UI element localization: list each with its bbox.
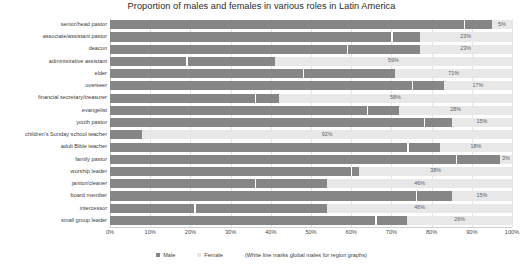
category-label: associate/assistant pastor bbox=[1, 31, 107, 43]
bar-segment-male bbox=[110, 69, 395, 78]
bar-segment-male bbox=[110, 167, 359, 176]
axis-line bbox=[110, 227, 512, 228]
bar-segment-male bbox=[110, 106, 399, 115]
data-label: 18% bbox=[470, 143, 481, 149]
category-axis-labels: senior/head pastorassociate/assistant pa… bbox=[0, 19, 107, 227]
category-label: intercessor bbox=[1, 203, 107, 215]
bar-segment-male bbox=[110, 57, 275, 66]
x-axis-tick-label: 50% bbox=[305, 229, 316, 235]
category-label: administrative assistant bbox=[1, 56, 107, 68]
data-label: 17% bbox=[472, 82, 483, 88]
bar-row: 23% bbox=[110, 31, 512, 43]
category-label: financial secretary/treasurer bbox=[1, 92, 107, 104]
bar-segment-male bbox=[110, 216, 407, 225]
bar-segment-male bbox=[110, 32, 420, 41]
category-label: board member bbox=[1, 190, 107, 202]
data-label: 92% bbox=[322, 131, 333, 137]
data-label: 46% bbox=[414, 204, 425, 210]
legend-swatch-male-icon bbox=[156, 253, 160, 257]
category-label: worship leader bbox=[1, 166, 107, 178]
global-male-marker-line bbox=[375, 216, 376, 225]
legend-item-female: Female bbox=[197, 252, 223, 258]
legend-item-male: Male bbox=[156, 252, 175, 258]
x-axis-tick-label: 90% bbox=[466, 229, 477, 235]
gridline bbox=[512, 19, 513, 227]
bar-segment-male bbox=[110, 179, 327, 188]
chart-container: Proportion of males and females in vario… bbox=[0, 0, 523, 267]
bar-row: 18% bbox=[110, 141, 512, 153]
bar-segment-male bbox=[110, 204, 327, 213]
global-male-marker-line bbox=[391, 32, 392, 41]
global-male-marker-line bbox=[424, 118, 425, 127]
category-label: deacon bbox=[1, 43, 107, 55]
x-axis-tick-label: 20% bbox=[185, 229, 196, 235]
category-label: small group leader bbox=[1, 215, 107, 227]
bar-segment-male bbox=[110, 94, 279, 103]
category-label: janitor/cleaner bbox=[1, 178, 107, 190]
category-label: children's Sunday school teacher bbox=[1, 129, 107, 141]
bar-row: 28% bbox=[110, 105, 512, 117]
legend-label-female: Female bbox=[204, 252, 223, 258]
x-axis-tick-label: 0% bbox=[106, 229, 114, 235]
global-male-marker-line bbox=[255, 94, 256, 103]
data-label: 26% bbox=[454, 216, 465, 222]
data-label: 15% bbox=[476, 118, 487, 124]
bar-row: 58% bbox=[110, 92, 512, 104]
global-male-marker-line bbox=[303, 69, 304, 78]
x-axis-tick-label: 60% bbox=[346, 229, 357, 235]
bar-segment-male bbox=[110, 143, 440, 152]
global-male-marker-line bbox=[255, 179, 256, 188]
bar-segment-male bbox=[110, 20, 492, 29]
legend-note: (White line marks global males for regio… bbox=[245, 252, 367, 258]
category-label: family pastor bbox=[1, 154, 107, 166]
data-label: 38% bbox=[430, 167, 441, 173]
bar-segment-male bbox=[110, 45, 420, 54]
global-male-marker-line bbox=[464, 20, 465, 29]
bar-row: 15% bbox=[110, 117, 512, 129]
bar-row: 17% bbox=[110, 80, 512, 92]
global-male-marker-line bbox=[407, 143, 408, 152]
data-label: 23% bbox=[460, 45, 471, 51]
legend-label-male: Male bbox=[163, 252, 175, 258]
data-label: 3% bbox=[502, 155, 510, 161]
bar-row: 71% bbox=[110, 68, 512, 80]
category-label: adult Bible teacher bbox=[1, 141, 107, 153]
bar-row: 26% bbox=[110, 215, 512, 227]
x-axis-tick-label: 100% bbox=[505, 229, 519, 235]
global-male-marker-line bbox=[412, 81, 413, 90]
bar-row: 46% bbox=[110, 178, 512, 190]
data-label: 23% bbox=[460, 33, 471, 39]
chart-legend: Male Female (White line marks global mal… bbox=[0, 248, 523, 262]
x-axis-tick-label: 40% bbox=[265, 229, 276, 235]
category-label: evangelist bbox=[1, 105, 107, 117]
x-axis-tick-label: 70% bbox=[386, 229, 397, 235]
data-label: 59% bbox=[388, 57, 399, 63]
data-label: 46% bbox=[414, 180, 425, 186]
global-male-marker-line bbox=[194, 204, 195, 213]
bar-row: 46% bbox=[110, 203, 512, 215]
bar-row: 23% bbox=[110, 43, 512, 55]
data-label: 15% bbox=[476, 192, 487, 198]
bar-row: 15% bbox=[110, 190, 512, 202]
bar-row: 3% bbox=[110, 154, 512, 166]
legend-swatch-female-icon bbox=[197, 253, 201, 257]
bar-row: 59% bbox=[110, 56, 512, 68]
global-male-marker-line bbox=[347, 45, 348, 54]
bar-row: 38% bbox=[110, 166, 512, 178]
x-axis-tick-label: 80% bbox=[426, 229, 437, 235]
bar-segment-male bbox=[110, 191, 452, 200]
bar-row: 92% bbox=[110, 129, 512, 141]
x-axis-tick-label: 30% bbox=[225, 229, 236, 235]
category-label: elder bbox=[1, 68, 107, 80]
global-male-marker-line bbox=[456, 155, 457, 164]
chart-title: Proportion of males and females in vario… bbox=[0, 1, 523, 11]
category-label: youth pastor bbox=[1, 117, 107, 129]
bar-segment-male bbox=[110, 118, 452, 127]
category-label: overseer bbox=[1, 80, 107, 92]
bar-segment-male bbox=[110, 155, 500, 164]
global-male-marker-line bbox=[351, 167, 352, 176]
plot-area: 5%23%23%59%71%17%58%28%15%92%18%3%38%46%… bbox=[110, 19, 512, 227]
global-male-marker-line bbox=[186, 57, 187, 66]
bar-row: 5% bbox=[110, 19, 512, 31]
global-male-marker-line bbox=[367, 106, 368, 115]
